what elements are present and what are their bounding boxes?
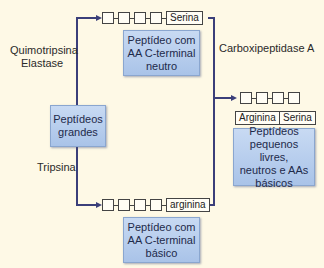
node-text: grandes — [58, 126, 98, 139]
terminal-residue-serine: Serina — [166, 11, 203, 25]
node-text: Peptídeo com — [128, 221, 196, 234]
free-amino-acid-serine: Serina — [279, 111, 316, 125]
amino-acid — [118, 12, 130, 24]
enzyme-label-carboxypeptidase: Carboxipeptidase A — [219, 42, 314, 55]
connector-up — [76, 17, 78, 105]
amino-acid — [150, 199, 162, 211]
amino-acid — [134, 12, 146, 24]
amino-acid — [272, 92, 284, 104]
connector-down — [76, 147, 78, 205]
node-text: pequenos livres, — [234, 138, 314, 164]
amino-acid — [102, 12, 114, 24]
connector-bottom-horizontal — [76, 204, 96, 206]
node-text: neutros e AAs — [240, 164, 309, 177]
amino-acid — [288, 92, 300, 104]
enzyme-label-elastase: Elastase — [21, 57, 63, 70]
amino-acid — [102, 199, 114, 211]
terminal-residue-arginine: arginina — [166, 198, 210, 212]
node-text: neutro — [146, 60, 177, 73]
node-text: AA C-terminal — [128, 47, 196, 60]
amino-acid — [150, 12, 162, 24]
peptide-chain-top: Serina — [102, 11, 203, 25]
node-text: AA C-terminal — [128, 234, 196, 247]
node-basic-c-terminal: Peptídeo com AA C-terminal básico — [123, 217, 200, 263]
diagram-canvas: Quimotripsina Elastase Tripsina Carboxip… — [0, 0, 324, 268]
amino-acid — [256, 92, 268, 104]
node-text: Peptídeos — [53, 113, 103, 126]
amino-acid — [240, 92, 252, 104]
connector-top-horizontal — [76, 17, 96, 19]
enzyme-label-chymotrypsin: Quimotripsina — [10, 44, 78, 57]
node-large-peptides: Peptídeos grandes — [50, 105, 106, 147]
connector-right-vertical — [213, 17, 215, 206]
node-products: Peptídeos pequenos livres, neutros e AAs… — [233, 128, 315, 186]
amino-acid — [134, 199, 146, 211]
node-neutral-c-terminal: Peptídeo com AA C-terminal neutro — [123, 30, 200, 76]
node-text: básicos — [255, 177, 292, 190]
peptide-chain-bottom: arginina — [102, 198, 210, 212]
peptide-chain-products — [240, 92, 300, 104]
arrow-products — [231, 95, 237, 101]
free-amino-acid-arginine: Arginina — [235, 111, 280, 125]
node-text: Peptídeos — [249, 125, 299, 138]
amino-acid — [118, 199, 130, 211]
node-text: básico — [146, 247, 178, 260]
connector-to-products — [213, 97, 231, 99]
enzyme-label-trypsin: Tripsina — [37, 161, 76, 174]
node-text: Peptídeo com — [128, 34, 196, 47]
